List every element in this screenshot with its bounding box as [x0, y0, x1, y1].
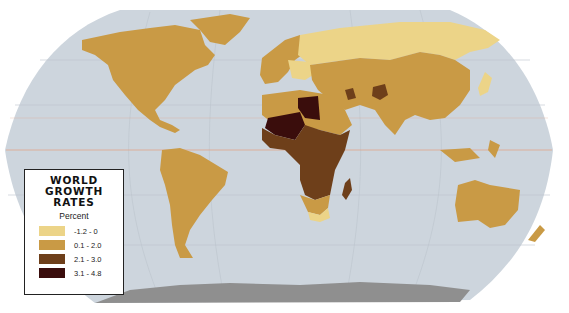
legend-label: 0.1 - 2.0	[74, 241, 102, 250]
legend-item: 3.1 - 4.8	[39, 266, 117, 280]
legend-label: -1.2 - 0	[74, 227, 98, 236]
legend: WORLD GROWTH RATES Percent -1.2 - 0 0.1 …	[24, 169, 124, 295]
legend-item: 2.1 - 3.0	[39, 252, 117, 266]
legend-label: 3.1 - 4.8	[74, 269, 102, 278]
legend-title-line2: RATES	[31, 197, 117, 208]
legend-label: 2.1 - 3.0	[74, 255, 102, 264]
legend-swatch	[39, 254, 65, 264]
legend-swatch	[39, 268, 65, 278]
legend-title-line1: WORLD GROWTH	[31, 175, 117, 197]
legend-item: 0.1 - 2.0	[39, 238, 117, 252]
legend-subtitle: Percent	[31, 211, 117, 221]
legend-item: -1.2 - 0	[39, 224, 117, 238]
legend-swatch	[39, 226, 65, 236]
legend-swatch	[39, 240, 65, 250]
